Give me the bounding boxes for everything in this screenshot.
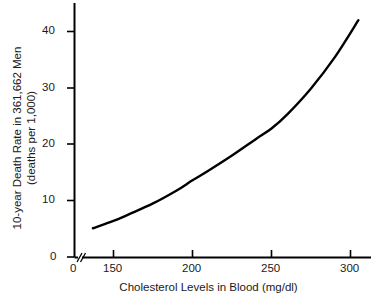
x-tick-label: 150: [103, 263, 122, 275]
data-series-line: [93, 20, 358, 228]
x-axis-title: Cholesterol Levels in Blood (mg/dl): [0, 281, 373, 293]
y-tick-label: 0: [50, 251, 56, 263]
chart-figure: 40 30 20 10 0 0 150 200 250 300 10-year …: [0, 0, 373, 300]
y-axis-title: 10-year Death Rate in 361,662 Men (death…: [6, 18, 42, 258]
y-axis-title-line2: (deaths per 1,000): [24, 47, 38, 230]
x-axis-title-text: Cholesterol Levels in Blood (mg/dl): [75, 281, 297, 293]
y-tick-label: 30: [42, 82, 55, 94]
x-tick-label: 250: [261, 263, 280, 275]
y-tick-label: 40: [42, 25, 55, 37]
x-tick-label: 200: [182, 263, 201, 275]
y-axis-title-line1: 10-year Death Rate in 361,662 Men: [10, 47, 24, 230]
y-tick-marks: [67, 32, 74, 258]
x-tick-label: 300: [340, 263, 359, 275]
x-tick-marks: [114, 250, 351, 257]
y-tick-label: 20: [42, 138, 55, 150]
y-tick-label: 10: [42, 194, 55, 206]
x-tick-label: 0: [70, 263, 76, 275]
